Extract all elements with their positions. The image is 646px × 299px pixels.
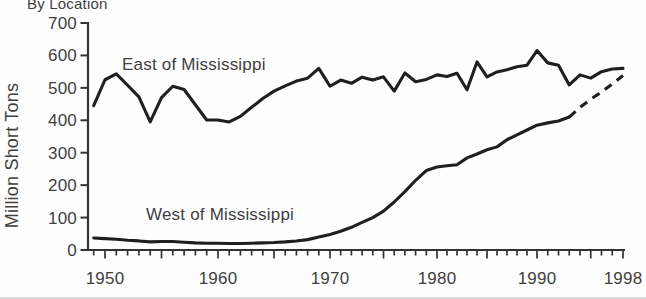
y-tick-label: 400 (48, 111, 77, 130)
coal-production-by-location-chart: 0100200300400500600700195019601970198019… (0, 0, 646, 299)
y-tick-label: 100 (48, 209, 77, 228)
y-tick-label: 0 (67, 241, 77, 260)
y-tick-label: 300 (48, 144, 77, 163)
y-tick-label: 200 (48, 176, 77, 195)
x-tick-label: 1990 (518, 269, 557, 288)
chart-title: By Location (27, 0, 108, 12)
x-tick-label: 1998 (604, 269, 643, 288)
x-tick-label: 1980 (418, 269, 457, 288)
x-tick-label: 1970 (311, 269, 350, 288)
west-of-mississippi-line-dashed (569, 76, 623, 118)
chart-canvas: 0100200300400500600700195019601970198019… (0, 0, 646, 299)
x-tick-label: 1960 (199, 269, 238, 288)
west-series-label: West of Mississippi (146, 205, 294, 225)
east-series-label: East of Mississippi (122, 55, 266, 75)
y-tick-label: 700 (48, 14, 77, 33)
y-axis-label: Million Short Tons (2, 75, 23, 237)
y-tick-label: 600 (48, 46, 77, 65)
y-tick-label: 500 (48, 79, 77, 98)
x-tick-label: 1950 (86, 269, 125, 288)
